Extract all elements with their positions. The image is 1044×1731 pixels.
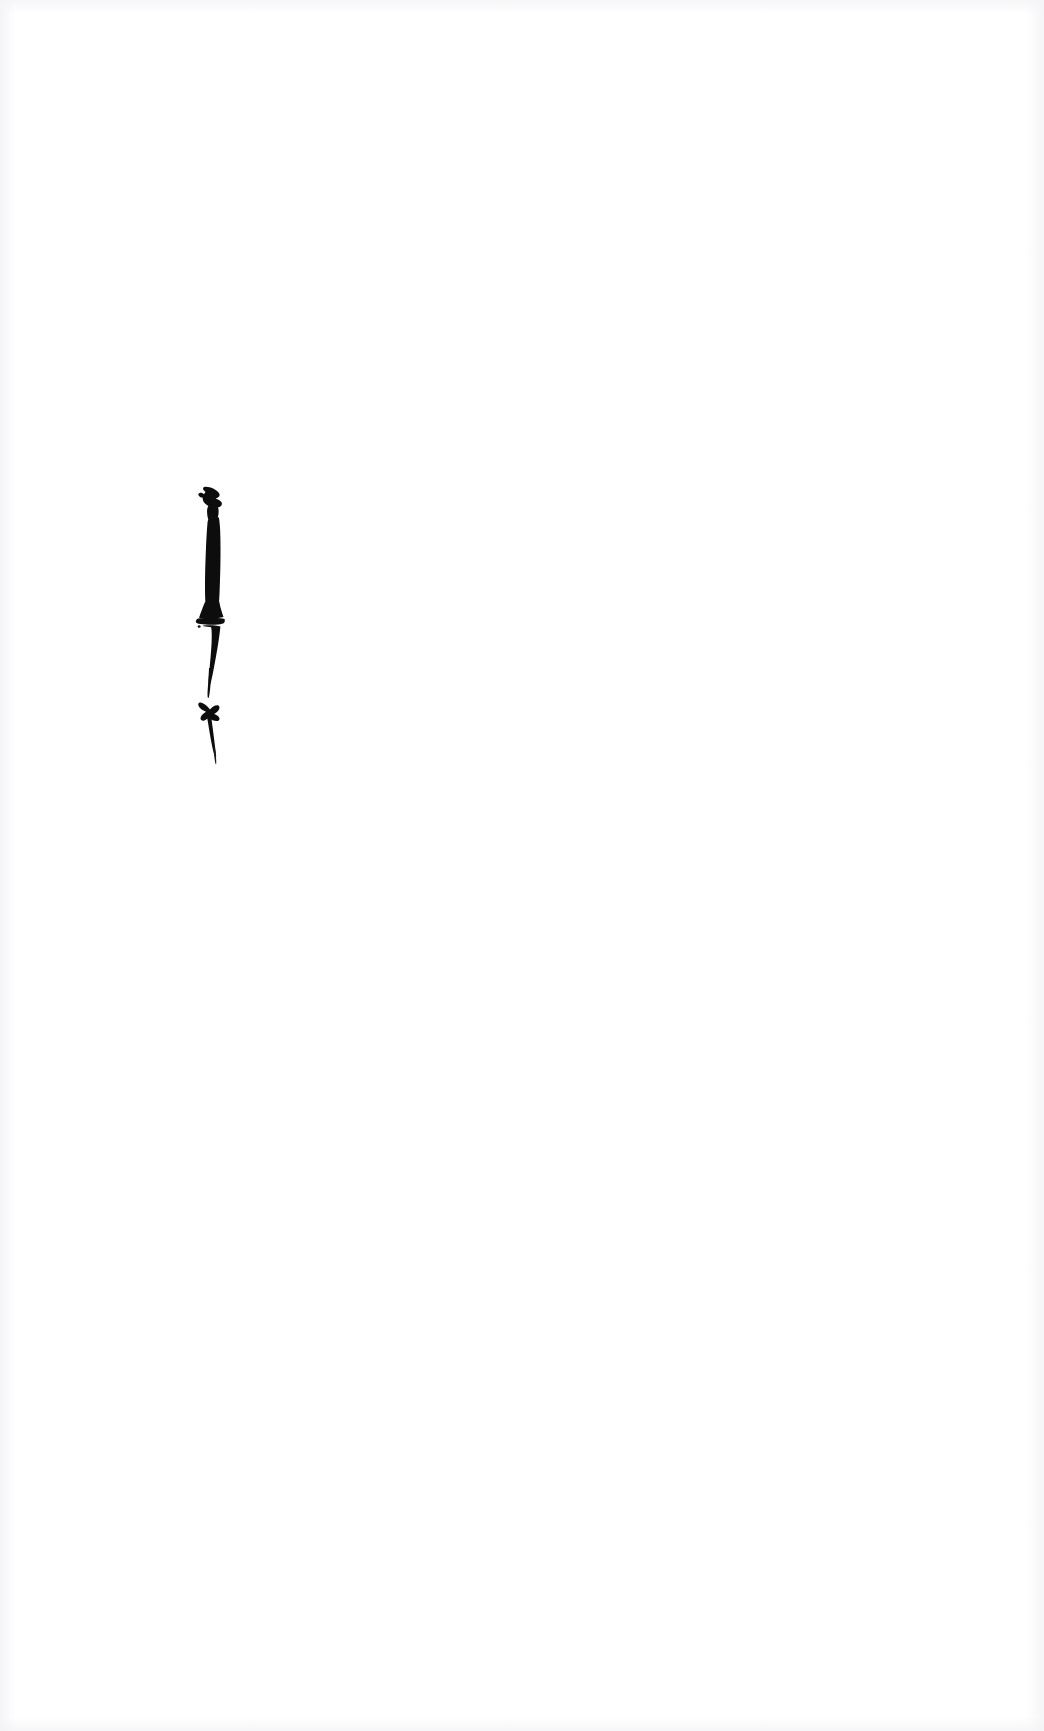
tick-mark [198, 702, 219, 764]
vertical-stroke-mark [196, 487, 225, 698]
scanned-page [0, 0, 1044, 1731]
ink-layer [0, 0, 1044, 1731]
